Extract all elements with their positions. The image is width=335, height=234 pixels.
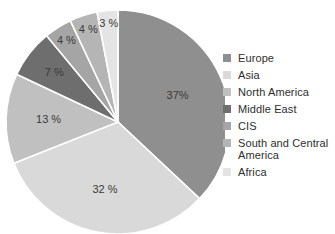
pie-slice-label: 32 % bbox=[92, 183, 117, 195]
legend-item-label: Asia bbox=[238, 69, 260, 81]
pie-chart-figure: 37%32 %13 %7 %4 %4 %3 % EuropeAsiaNorth … bbox=[0, 0, 335, 234]
legend-item-label: Africa bbox=[238, 166, 267, 178]
pie-slice-label: 37% bbox=[167, 89, 189, 101]
legend-item[interactable]: South and Central America bbox=[223, 137, 335, 161]
legend-swatch-icon bbox=[223, 105, 231, 113]
legend-swatch-icon bbox=[223, 71, 231, 79]
legend-swatch-icon bbox=[223, 88, 231, 96]
legend-item-label: South and Central America bbox=[238, 137, 335, 161]
pie-slice-label: 4 % bbox=[57, 34, 76, 46]
legend-item-label: Middle East bbox=[238, 103, 297, 115]
legend-item[interactable]: Middle East bbox=[223, 103, 335, 115]
legend-swatch-icon bbox=[223, 139, 231, 147]
legend-item[interactable]: Africa bbox=[223, 166, 335, 178]
legend-swatch-icon bbox=[223, 168, 231, 176]
pie-slice-label: 3 % bbox=[99, 17, 118, 29]
legend-item-label: CIS bbox=[238, 120, 257, 132]
legend-swatch-icon bbox=[223, 122, 231, 130]
pie-slice-label: 7 % bbox=[45, 66, 64, 78]
legend-item-label: North America bbox=[238, 86, 309, 98]
legend-item[interactable]: Europe bbox=[223, 52, 335, 64]
pie-slice-label: 4 % bbox=[79, 23, 98, 35]
legend-item[interactable]: CIS bbox=[223, 120, 335, 132]
chart-legend: EuropeAsiaNorth AmericaMiddle EastCISSou… bbox=[223, 52, 335, 183]
legend-item[interactable]: North America bbox=[223, 86, 335, 98]
legend-swatch-icon bbox=[223, 54, 231, 62]
pie-chart-canvas: 37%32 %13 %7 %4 %4 %3 % bbox=[0, 0, 225, 234]
pie-slice-label: 13 % bbox=[36, 113, 61, 125]
legend-item[interactable]: Asia bbox=[223, 69, 335, 81]
legend-item-label: Europe bbox=[238, 52, 274, 64]
